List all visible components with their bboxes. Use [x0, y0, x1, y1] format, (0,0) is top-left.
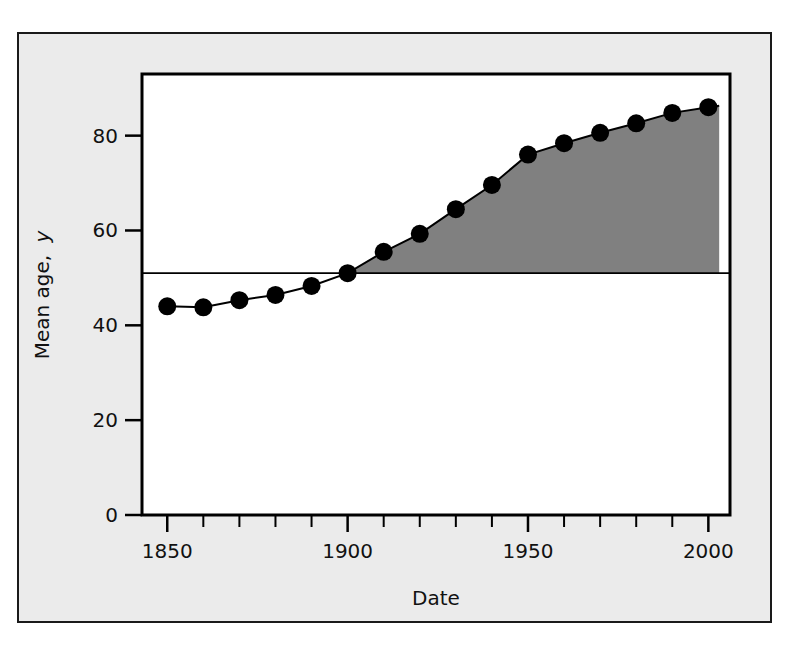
- y-axis-title-main: Mean age,: [30, 255, 54, 359]
- x-axis-title: Date: [412, 586, 460, 610]
- y-tick-label: 40: [93, 313, 118, 337]
- data-point-marker: [483, 176, 501, 194]
- data-point-marker: [447, 200, 465, 218]
- data-point-marker: [194, 298, 212, 316]
- data-point-marker: [375, 243, 393, 261]
- x-tick-label: 1950: [503, 539, 554, 563]
- data-point-marker: [555, 134, 573, 152]
- y-tick-label: 80: [93, 124, 118, 148]
- data-point-marker: [158, 297, 176, 315]
- x-tick-label: 1850: [142, 539, 193, 563]
- data-point-marker: [591, 124, 609, 142]
- data-point-marker: [303, 277, 321, 295]
- data-point-marker: [519, 146, 537, 164]
- y-tick-label: 0: [105, 503, 118, 527]
- y-axis-title: Mean age, y: [30, 230, 54, 360]
- data-point-marker: [627, 114, 645, 132]
- data-point-marker: [230, 291, 248, 309]
- data-point-marker: [339, 264, 357, 282]
- x-tick-label: 1900: [322, 539, 373, 563]
- data-point-marker: [266, 286, 284, 304]
- y-axis-title-symbol: y: [30, 230, 54, 244]
- x-tick-label: 2000: [683, 539, 734, 563]
- y-axis-ticks: 020406080: [93, 124, 142, 527]
- data-point-marker: [699, 98, 717, 116]
- x-axis-ticks: 1850190019502000: [142, 515, 734, 563]
- data-point-marker: [663, 104, 681, 122]
- figure-panel: 020406080 1850190019502000 Date Mean age…: [17, 32, 772, 623]
- y-tick-label: 20: [93, 408, 118, 432]
- line-chart: 020406080 1850190019502000 Date Mean age…: [19, 34, 770, 621]
- data-point-marker: [411, 225, 429, 243]
- y-tick-label: 60: [93, 218, 118, 242]
